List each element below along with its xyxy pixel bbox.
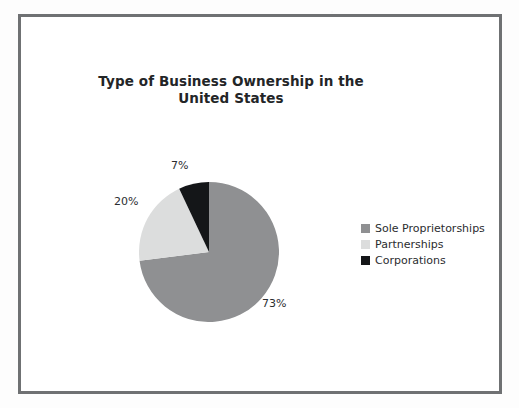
legend-label-corporations: Corporations xyxy=(375,255,446,267)
legend-swatch-icon-partnerships xyxy=(361,240,370,249)
pie-label-corporations: 7% xyxy=(171,159,188,172)
legend-item-sole-proprietorships[interactable]: Sole Proprietorships xyxy=(361,221,485,236)
legend-swatch-icon-corporations xyxy=(361,256,370,265)
scanned-page: Type of Business Ownership in the United… xyxy=(0,0,519,408)
chart-legend: Sole Proprietorships Partnerships Corpor… xyxy=(361,221,485,269)
pie-svg xyxy=(139,182,279,322)
pie-label-partnerships: 20% xyxy=(114,195,138,208)
legend-label-sole-proprietorships: Sole Proprietorships xyxy=(375,223,485,235)
legend-item-partnerships[interactable]: Partnerships xyxy=(361,237,485,252)
legend-label-partnerships: Partnerships xyxy=(375,239,443,251)
chart-title: Type of Business Ownership in the United… xyxy=(71,73,391,107)
pie-label-sole-proprietorships: 73% xyxy=(262,297,286,310)
legend-item-corporations[interactable]: Corporations xyxy=(361,253,485,268)
chart-frame: Type of Business Ownership in the United… xyxy=(18,14,502,394)
legend-swatch-icon-sole-proprietorships xyxy=(361,224,370,233)
pie-chart xyxy=(139,182,279,322)
